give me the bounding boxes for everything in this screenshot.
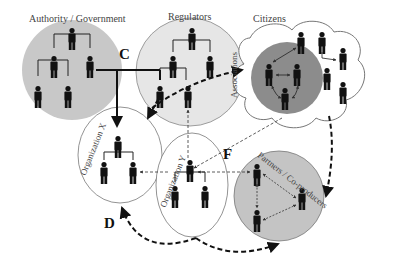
regulators-label: Regulators	[168, 11, 211, 22]
citizens-cloud	[233, 21, 365, 128]
marker-c: C	[119, 46, 130, 63]
marker-f: F	[223, 146, 232, 163]
authority-label: Authority / Government	[29, 13, 126, 24]
governance-network-diagram	[0, 0, 393, 271]
marker-d: D	[104, 215, 115, 232]
citizens-label: Citizens	[253, 13, 286, 24]
associations-label: Associations	[229, 52, 239, 98]
